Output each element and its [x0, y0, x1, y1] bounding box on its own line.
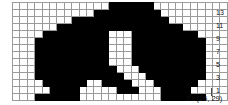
- chart-cell-empty: [27, 24, 34, 31]
- chart-cell-filled: [101, 80, 108, 87]
- chart-cell-filled: [146, 10, 153, 17]
- chart-cell-empty: [101, 87, 108, 94]
- chart-cell-empty: [42, 17, 49, 24]
- chart-cell-filled: [94, 38, 101, 45]
- chart-cell-filled: [183, 87, 190, 94]
- chart-cell-filled: [64, 38, 71, 45]
- chart-cell-filled: [138, 24, 145, 31]
- chart-cell-filled: [72, 31, 79, 38]
- chart-cell-filled: [161, 87, 168, 94]
- chart-cell-filled: [190, 31, 197, 38]
- chart-cell-filled: [94, 66, 101, 73]
- chart-cell-filled: [57, 52, 64, 59]
- chart-cell-empty: [42, 3, 49, 10]
- chart-cell-filled: [57, 66, 64, 73]
- chart-cell-filled: [72, 38, 79, 45]
- chart-cell-filled: [94, 31, 101, 38]
- chart-cell-empty: [87, 87, 94, 94]
- chart-cell-empty: [20, 17, 27, 24]
- chart-cell-empty: [109, 45, 116, 52]
- chart-cell-empty: [35, 31, 42, 38]
- chart-cell-filled: [42, 59, 49, 66]
- chart-cell-filled: [153, 10, 160, 17]
- chart-cell-filled: [87, 73, 94, 80]
- chart-cell-filled: [42, 73, 49, 80]
- chart-cell-filled: [42, 80, 49, 87]
- chart-cell-filled: [183, 52, 190, 59]
- chart-cell-empty: [50, 24, 57, 31]
- chart-cell-filled: [57, 31, 64, 38]
- chart-cell-filled: [72, 52, 79, 59]
- chart-cell-empty: [175, 17, 182, 24]
- chart-cell-filled: [101, 17, 108, 24]
- chart-cell-filled: [175, 73, 182, 80]
- chart-cell-empty: [183, 10, 190, 17]
- chart-cell-empty: [79, 94, 86, 101]
- chart-cell-filled: [146, 24, 153, 31]
- chart-cell-empty: [175, 3, 182, 10]
- chart-cell-filled: [109, 10, 116, 17]
- chart-cell-filled: [138, 66, 145, 73]
- chart-cell-empty: [175, 10, 182, 17]
- chart-cell-filled: [79, 73, 86, 80]
- chart-cell-filled: [146, 31, 153, 38]
- chart-cell-filled: [87, 66, 94, 73]
- chart-cell-filled: [183, 45, 190, 52]
- chart-cell-filled: [161, 94, 168, 101]
- chart-cell-empty: [183, 3, 190, 10]
- chart-cell-filled: [94, 17, 101, 24]
- chart-cell-empty: [20, 45, 27, 52]
- chart-cell-filled: [161, 45, 168, 52]
- chart-cell-filled: [87, 38, 94, 45]
- chart-cell-filled: [175, 45, 182, 52]
- chart-cell-filled: [146, 52, 153, 59]
- row-number-label: 11: [216, 22, 223, 29]
- chart-cell-empty: [20, 66, 27, 73]
- chart-cell-filled: [109, 73, 116, 80]
- stitch-chart-grid: [12, 2, 228, 101]
- chart-cell-filled: [72, 45, 79, 52]
- chart-cell-empty: [13, 73, 20, 80]
- chart-cell-filled: [161, 66, 168, 73]
- chart-cell-empty: [205, 3, 212, 10]
- chart-cell-filled: [94, 24, 101, 31]
- chart-cell-filled: [168, 66, 175, 73]
- chart-cell-filled: [198, 59, 205, 66]
- chart-row: [13, 59, 228, 66]
- chart-cell-empty: [205, 31, 212, 38]
- chart-cell-empty: [27, 73, 34, 80]
- chart-cell-empty: [27, 80, 34, 87]
- chart-cell-filled: [131, 3, 138, 10]
- chart-cell-empty: [50, 3, 57, 10]
- chart-cell-empty: [168, 3, 175, 10]
- chart-cell-filled: [131, 10, 138, 17]
- chart-cell-empty: [198, 10, 205, 17]
- chart-cell-empty: [124, 52, 131, 59]
- chart-cell-empty: [87, 10, 94, 17]
- chart-cell-filled: [57, 59, 64, 66]
- chart-cell-filled: [131, 24, 138, 31]
- chart-cell-filled: [131, 38, 138, 45]
- chart-cell-filled: [116, 24, 123, 31]
- chart-cell-empty: [146, 94, 153, 101]
- chart-cell-empty: [190, 87, 197, 94]
- chart-cell-empty: [94, 80, 101, 87]
- chart-cell-filled: [94, 59, 101, 66]
- chart-cell-filled: [50, 87, 57, 94]
- chart-cell-filled: [42, 38, 49, 45]
- chart-cell-filled: [64, 94, 71, 101]
- chart-cell-empty: [205, 10, 212, 17]
- chart-cell-empty: [13, 45, 20, 52]
- chart-cell-filled: [146, 66, 153, 73]
- chart-cell-filled: [64, 45, 71, 52]
- chart-cell-empty: [205, 80, 212, 87]
- chart-row: [13, 17, 228, 24]
- chart-cell-filled: [161, 24, 168, 31]
- chart-cell-filled: [131, 45, 138, 52]
- chart-cell-filled: [57, 38, 64, 45]
- chart-cell-filled: [72, 66, 79, 73]
- chart-cell-empty: [198, 31, 205, 38]
- chart-cell-filled: [146, 17, 153, 24]
- chart-cell-filled: [72, 87, 79, 94]
- chart-cell-filled: [153, 17, 160, 24]
